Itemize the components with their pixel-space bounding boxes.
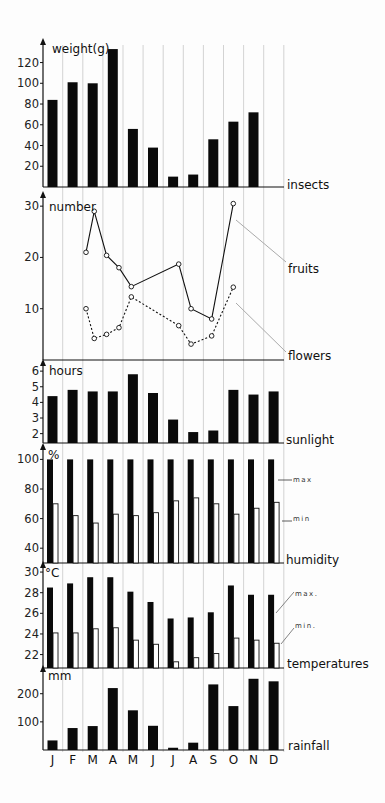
bar <box>148 726 158 750</box>
min-bar <box>234 638 239 668</box>
sunlight-label: sunlight <box>286 433 334 447</box>
temp-min-label: min. <box>295 622 316 630</box>
max-bar <box>127 592 133 668</box>
min-bar <box>154 513 159 563</box>
svg-text:20: 20 <box>24 250 39 264</box>
month-label: S <box>209 753 217 767</box>
min-bar <box>194 498 199 563</box>
min-bar <box>133 516 138 563</box>
bar <box>168 420 178 443</box>
max-bar <box>47 588 53 668</box>
month-label: J <box>50 753 55 767</box>
rainfall-label: rainfall <box>288 739 329 753</box>
min-bar <box>174 501 179 563</box>
month-label: J <box>150 753 155 767</box>
max-bar <box>188 617 194 668</box>
svg-text:60: 60 <box>24 118 39 132</box>
svg-text:4: 4 <box>32 395 39 409</box>
bar <box>108 49 118 187</box>
temp-axis-label: °C <box>45 566 59 580</box>
min-bar <box>214 654 219 668</box>
min-bar <box>254 508 259 563</box>
min-bar <box>113 628 118 668</box>
min-bar <box>274 502 279 563</box>
svg-text:24: 24 <box>24 627 39 641</box>
max-bar <box>107 577 113 668</box>
svg-text:60: 60 <box>24 512 39 526</box>
bar <box>188 175 198 187</box>
max-bar <box>148 602 154 668</box>
max-bar <box>107 459 113 563</box>
bar <box>269 681 279 750</box>
bar <box>148 148 158 187</box>
svg-text:200: 200 <box>17 687 39 701</box>
bar <box>48 396 58 443</box>
climate-chart: 2040608010012010203023456406080100222426… <box>0 0 385 803</box>
min-bar <box>194 658 199 668</box>
temperatures-label: temperatures <box>287 657 369 671</box>
max-bar <box>47 459 53 563</box>
svg-text:100: 100 <box>17 715 39 729</box>
month-label: M <box>88 753 98 767</box>
min-bar <box>53 504 58 563</box>
svg-text:6: 6 <box>32 364 39 378</box>
month-label: D <box>269 753 278 767</box>
bar <box>168 177 178 187</box>
bar <box>228 706 238 750</box>
max-bar <box>208 612 214 668</box>
bar <box>88 726 98 750</box>
min-bar <box>274 643 279 668</box>
insects-axis-label: weight(g) <box>52 42 109 56</box>
max-bar <box>87 577 93 668</box>
svg-text:40: 40 <box>24 541 39 555</box>
bar <box>48 740 58 750</box>
max-bar <box>188 459 194 563</box>
rain-axis-label: mm <box>48 669 71 683</box>
max-bar <box>67 459 73 563</box>
svg-text:5: 5 <box>32 380 39 394</box>
svg-text:28: 28 <box>24 586 39 600</box>
humidity-max-label: max <box>293 476 313 484</box>
max-bar <box>228 585 234 668</box>
max-bar <box>127 459 133 563</box>
max-bar <box>208 459 214 563</box>
max-bar <box>248 459 254 563</box>
svg-text:80: 80 <box>24 482 39 496</box>
temperatures-panel: 2224262830 <box>24 561 284 668</box>
svg-text:100: 100 <box>17 76 39 90</box>
bar <box>68 390 78 443</box>
month-label: M <box>128 753 138 767</box>
humidity-axis-label: % <box>48 448 59 462</box>
min-bar <box>154 644 159 668</box>
min-bar <box>113 514 118 563</box>
fruits-label: fruits <box>288 262 319 276</box>
bar <box>88 391 98 443</box>
bar <box>108 391 118 443</box>
bar <box>228 390 238 443</box>
bar <box>128 710 138 750</box>
min-bar <box>93 523 98 563</box>
bar <box>269 391 279 443</box>
svg-text:2: 2 <box>32 427 39 441</box>
fruits-flowers-panel: 102030 <box>24 191 284 360</box>
bar <box>249 112 259 187</box>
svg-text:100: 100 <box>17 452 39 466</box>
bar <box>188 743 198 750</box>
month-labels: JFMAMJJASOND <box>50 753 278 767</box>
min-bar <box>214 504 219 563</box>
max-bar <box>148 459 154 563</box>
month-label: N <box>249 753 258 767</box>
max-bar <box>87 459 93 563</box>
svg-text:26: 26 <box>24 606 39 620</box>
month-label: J <box>170 753 175 767</box>
bar <box>228 122 238 187</box>
humidity-min-label: min <box>293 515 311 523</box>
max-bar <box>248 595 254 668</box>
number-axis-label: number <box>49 200 96 214</box>
max-bar <box>168 618 174 668</box>
bar <box>208 684 218 750</box>
bar <box>128 374 138 443</box>
annotation-lines <box>236 220 294 644</box>
bar <box>208 139 218 187</box>
bar <box>68 82 78 187</box>
